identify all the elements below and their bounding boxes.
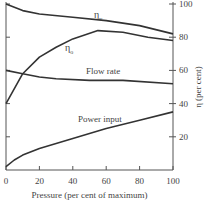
label-eta-o: ηo (65, 42, 73, 55)
y-tick-label: 20 (179, 132, 189, 142)
chart: 02040608010020406080100Pressure (per cen… (0, 0, 206, 200)
x-tick-label: 0 (4, 176, 9, 186)
y-tick-label: 40 (179, 99, 189, 109)
label-power-input: Power input (78, 114, 122, 124)
y-tick-label: 80 (179, 32, 189, 42)
x-tick-label: 60 (102, 176, 112, 186)
x-tick-label: 80 (135, 176, 145, 186)
x-tick-label: 100 (166, 176, 180, 186)
y-tick-label: 60 (179, 65, 189, 75)
label-flow-rate: Flow rate (86, 66, 120, 76)
series-line-0 (6, 4, 173, 34)
x-tick-label: 20 (35, 176, 45, 186)
x-tick-label: 40 (68, 176, 78, 186)
y-axis-label: η (per cent) (193, 66, 203, 108)
y-tick-label: 100 (179, 0, 193, 9)
x-axis-label: Pressure (per cent of maximum) (32, 190, 148, 200)
